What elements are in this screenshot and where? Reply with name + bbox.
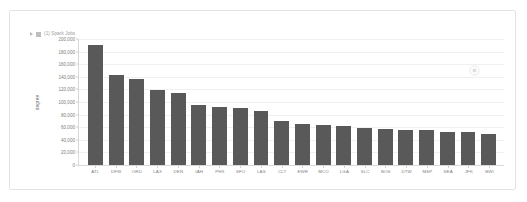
- bar-slot: [85, 39, 106, 165]
- bar[interactable]: [378, 129, 393, 165]
- x-axis-tick-mark: [219, 166, 220, 168]
- x-axis-tick-mark: [261, 166, 262, 168]
- x-axis-tick-label: MSP: [417, 169, 438, 174]
- x-axis-tick-mark: [302, 166, 303, 168]
- bar[interactable]: [316, 125, 331, 165]
- x-axis-tick-mark-slot: [396, 166, 417, 168]
- x-axis-tick-label: DTW: [396, 169, 417, 174]
- bar[interactable]: [481, 134, 496, 166]
- x-axis-tick-mark-slot: [438, 166, 459, 168]
- x-axis-tick-mark: [489, 166, 490, 168]
- bar-slot: [106, 39, 127, 165]
- bar[interactable]: [109, 75, 124, 165]
- y-axis-tick-label: 140,000: [58, 74, 75, 79]
- bar-slot: [292, 39, 313, 165]
- x-axis-tick-mark-slot: [210, 166, 231, 168]
- x-axis-tick-mark-slot: [417, 166, 438, 168]
- bar-slot: [333, 39, 354, 165]
- bar[interactable]: [212, 107, 227, 165]
- bar-slot: [458, 39, 479, 165]
- x-axis-tick-label: MCO: [313, 169, 334, 174]
- x-axis-tick-mark: [178, 166, 179, 168]
- y-axis-tick-label: 40,000: [61, 137, 75, 142]
- bar[interactable]: [419, 130, 434, 165]
- x-axis-tick-label: DFW: [106, 169, 127, 174]
- bar-slot: [375, 39, 396, 165]
- bar[interactable]: [461, 132, 476, 165]
- legend-swatch-icon: [36, 32, 41, 37]
- x-axis-tick-mark-slot: [313, 166, 334, 168]
- x-axis-tick-mark-slot: [355, 166, 376, 168]
- bar-slot: [437, 39, 458, 165]
- bar[interactable]: [357, 128, 372, 165]
- x-axis-tick-mark: [116, 166, 117, 168]
- y-axis-tick-label: 0: [72, 163, 75, 168]
- bar[interactable]: [274, 121, 289, 165]
- bar-slot: [396, 39, 417, 165]
- bar[interactable]: [295, 124, 310, 165]
- x-axis-tick-mark-slot: [230, 166, 251, 168]
- bar[interactable]: [254, 111, 269, 165]
- circle-play-icon[interactable]: [469, 62, 480, 73]
- bar[interactable]: [171, 93, 186, 165]
- bar[interactable]: [129, 79, 144, 165]
- bar-slot: [478, 39, 499, 165]
- y-axis-tick-label: 60,000: [61, 125, 75, 130]
- y-axis-title: degree: [33, 39, 43, 166]
- bar[interactable]: [88, 45, 103, 165]
- plot-area: [78, 39, 504, 166]
- bar[interactable]: [336, 126, 351, 165]
- x-axis-tick-label: JFK: [459, 169, 480, 174]
- x-axis-tick-mark: [323, 166, 324, 168]
- y-axis-tick-label: 180,000: [58, 49, 75, 54]
- bar-slot: [147, 39, 168, 165]
- bar-slot: [416, 39, 437, 165]
- bar-slot: [354, 39, 375, 165]
- x-axis-tick-label: BOS: [376, 169, 397, 174]
- y-axis-tick-label: 80,000: [61, 112, 75, 117]
- x-axis-tick-mark-slot: [376, 166, 397, 168]
- x-axis-tick-label: ATL: [85, 169, 106, 174]
- chart-card: (1) Spark Jobs degree 200,000180,000160,…: [9, 10, 516, 190]
- y-axis-tick-labels: 200,000180,000160,000140,000120,000100,0…: [44, 39, 75, 166]
- x-axis-tick-label: LAS: [251, 169, 272, 174]
- caret-right-icon[interactable]: [30, 32, 33, 36]
- bar[interactable]: [440, 132, 455, 165]
- x-axis-tick-mark-slot: [127, 166, 148, 168]
- bar[interactable]: [150, 90, 165, 165]
- x-axis-tick-mark-slot: [189, 166, 210, 168]
- x-axis-tick-mark: [468, 166, 469, 168]
- x-axis-tick-mark-slot: [106, 166, 127, 168]
- bar-series: [79, 39, 504, 165]
- x-axis-tick-mark: [136, 166, 137, 168]
- x-axis-tick-label: SFO: [230, 169, 251, 174]
- x-axis-tick-mark: [385, 166, 386, 168]
- bar[interactable]: [191, 105, 206, 165]
- bar[interactable]: [398, 130, 413, 165]
- x-axis-tick-label: SLC: [355, 169, 376, 174]
- y-axis-tick-label: 100,000: [58, 100, 75, 105]
- bar-slot: [251, 39, 272, 165]
- screenshot-root: (1) Spark Jobs degree 200,000180,000160,…: [0, 0, 527, 202]
- x-axis-tick-labels: ATLDFWORDLAXDENIAHPHXSFOLASCLTEWRMCOLGAS…: [79, 169, 505, 174]
- x-axis-tick-mark-slot: [147, 166, 168, 168]
- bar-slot: [313, 39, 334, 165]
- bar-slot: [209, 39, 230, 165]
- x-axis-tick-label: BWI: [479, 169, 500, 174]
- x-axis-tick-mark: [157, 166, 158, 168]
- x-axis-tick-mark-slot: [334, 166, 355, 168]
- x-axis-tick-mark-slot: [272, 166, 293, 168]
- x-axis-tick-label: IAH: [189, 169, 210, 174]
- x-axis-tick-mark-slot: [251, 166, 272, 168]
- bar[interactable]: [233, 108, 248, 165]
- x-axis-tick-label: SEA: [438, 169, 459, 174]
- bar-slot: [168, 39, 189, 165]
- bar-slot: [126, 39, 147, 165]
- x-axis-tick-mark: [282, 166, 283, 168]
- x-axis-tick-label: LGA: [334, 169, 355, 174]
- x-axis-tick-mark: [427, 166, 428, 168]
- x-axis-tick-mark: [365, 166, 366, 168]
- x-axis-tick-mark: [95, 166, 96, 168]
- x-axis-tick-label: LAX: [147, 169, 168, 174]
- x-axis-tick-label: CLT: [272, 169, 293, 174]
